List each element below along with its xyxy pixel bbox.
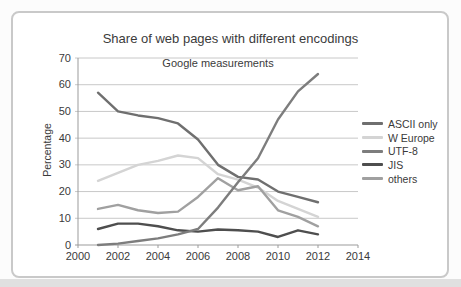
legend-item: others bbox=[362, 172, 438, 186]
scan-artifact-band bbox=[0, 279, 461, 287]
chart-title: Share of web pages with different encodi… bbox=[12, 31, 449, 46]
legend-label: JIS bbox=[388, 159, 403, 171]
scanned-page: 0102030405060702000200220042006200820102… bbox=[0, 0, 461, 287]
y-tick-label: 0 bbox=[65, 239, 71, 251]
legend-swatch-line bbox=[362, 177, 383, 180]
legend-label: ASCII only bbox=[388, 118, 438, 130]
y-tick-label: 40 bbox=[59, 132, 71, 144]
y-tick-label: 20 bbox=[59, 185, 71, 197]
y-tick-label: 50 bbox=[59, 105, 71, 117]
x-tick-label: 2010 bbox=[266, 250, 290, 262]
x-tick-label: 2012 bbox=[306, 250, 330, 262]
x-tick-label: 2014 bbox=[346, 250, 370, 262]
x-tick-label: 2008 bbox=[226, 250, 250, 262]
legend-swatch-line bbox=[362, 122, 383, 125]
legend-label: others bbox=[388, 173, 417, 185]
series-line-jis bbox=[98, 224, 318, 237]
x-tick-label: 2006 bbox=[186, 250, 210, 262]
legend-item: W Europe bbox=[362, 131, 438, 145]
legend-item: UTF-8 bbox=[362, 144, 438, 158]
legend-swatch-line bbox=[362, 163, 383, 166]
y-tick-label: 10 bbox=[59, 212, 71, 224]
y-tick-label: 30 bbox=[59, 158, 71, 170]
chart-legend: ASCII onlyW EuropeUTF-8JISothers bbox=[362, 117, 438, 185]
x-tick-label: 2002 bbox=[106, 250, 130, 262]
legend-item: ASCII only bbox=[362, 117, 438, 131]
series-line-utf-8 bbox=[98, 74, 318, 245]
x-tick-label: 2000 bbox=[66, 250, 90, 262]
legend-label: W Europe bbox=[388, 132, 435, 144]
legend-label: UTF-8 bbox=[388, 145, 418, 157]
legend-swatch-line bbox=[362, 136, 383, 139]
legend-item: JIS bbox=[362, 158, 438, 172]
y-tick-label: 70 bbox=[59, 52, 71, 64]
y-tick-label: 60 bbox=[59, 78, 71, 90]
y-axis-title: Percentage bbox=[41, 123, 53, 177]
legend-swatch-line bbox=[362, 150, 383, 153]
x-tick-label: 2004 bbox=[146, 250, 170, 262]
chart-subtitle: Google measurements bbox=[78, 57, 358, 69]
